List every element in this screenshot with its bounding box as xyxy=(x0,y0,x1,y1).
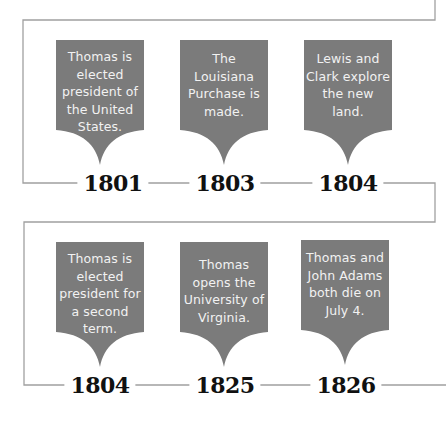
year-label: 1825 xyxy=(189,371,260,399)
event-description: Thomas is elected president for a second… xyxy=(58,250,142,338)
year-label: 1804 xyxy=(312,169,383,197)
event-description: Thomas and John Adams both die on July 4… xyxy=(303,249,387,319)
year-label: 1803 xyxy=(189,169,260,197)
event-card-1801: Thomas is elected president of the Unite… xyxy=(56,40,144,165)
year-label: 1801 xyxy=(77,169,148,197)
event-card-1826: Thomas and John Adams both die on July 4… xyxy=(301,240,389,365)
event-description: Thomas is elected president of the Unite… xyxy=(58,48,142,136)
event-description: Lewis and Clark explore the new land. xyxy=(306,50,390,120)
event-card-1803: The Louisiana Purchase is made. xyxy=(180,40,268,165)
year-label: 1804 xyxy=(64,371,135,399)
event-description: Thomas opens the University of Virginia. xyxy=(182,256,266,326)
event-description: The Louisiana Purchase is made. xyxy=(182,50,266,120)
year-label: 1826 xyxy=(310,371,381,399)
event-card-1804-second-term: Thomas is elected president for a second… xyxy=(56,242,144,367)
event-card-1825: Thomas opens the University of Virginia. xyxy=(180,242,268,367)
event-card-1804-lewis-clark: Lewis and Clark explore the new land. xyxy=(304,40,392,165)
